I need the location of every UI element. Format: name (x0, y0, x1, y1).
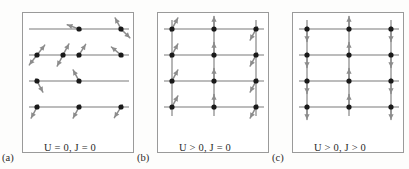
panel-b-sublabel: (b) (137, 152, 149, 163)
lattice-site (304, 78, 309, 93)
site-dot (346, 26, 351, 31)
site-dot (253, 52, 258, 57)
site-dot (304, 52, 309, 57)
panel-c: U > 0, J > 0 (c) (270, 0, 409, 169)
site-dot (34, 52, 39, 57)
site-dot (388, 104, 393, 109)
lattice-site (388, 78, 393, 93)
site-dot (76, 52, 81, 57)
site-dot (118, 104, 123, 109)
lattice-site (304, 26, 309, 41)
panel-c-box (292, 12, 404, 153)
site-dot (346, 78, 351, 83)
lattice-site (169, 70, 177, 84)
lattice-site (211, 95, 216, 110)
panel-b: U > 0, J = 0 (b) (135, 0, 275, 169)
lattice-site (169, 18, 177, 32)
panel-a-lattice (23, 13, 135, 154)
site-dot (388, 78, 393, 83)
site-dot (346, 52, 351, 57)
site-dot (169, 78, 174, 83)
panel-a-sublabel: (a) (2, 152, 14, 163)
lattice-site (388, 104, 393, 119)
lattice-site (111, 47, 123, 58)
lattice-site (346, 69, 351, 84)
lattice-site (211, 17, 216, 32)
site-dot (253, 26, 258, 31)
lattice-site (76, 44, 85, 57)
panel-b-caption: U > 0, J = 0 (135, 142, 275, 153)
lattice-site (169, 44, 177, 58)
lattice-site (67, 24, 81, 32)
panel-c-sublabel: (c) (272, 152, 284, 163)
site-dot (76, 78, 81, 83)
lattice-site (388, 52, 393, 67)
lattice-site (73, 104, 81, 118)
panel-a-box (22, 12, 134, 153)
lattice-site (304, 52, 309, 67)
site-dot (169, 52, 174, 57)
site-dot (211, 52, 216, 57)
lattice-site (73, 70, 81, 84)
lattice-site (346, 43, 351, 58)
lattice-site (250, 104, 258, 118)
site-dot (76, 26, 81, 31)
site-dot (34, 78, 39, 83)
lattice-site (114, 104, 123, 117)
site-dot (304, 104, 309, 109)
panel-c-lattice (293, 13, 405, 154)
site-dot (211, 104, 216, 109)
lattice-site (211, 69, 216, 84)
lattice-site (250, 52, 258, 66)
lattice-site (34, 78, 42, 92)
lattice-site (304, 104, 309, 119)
site-dot (211, 26, 216, 31)
site-dot (211, 78, 216, 83)
site-dot (60, 52, 65, 57)
lattice-site (346, 95, 351, 110)
site-dot (304, 26, 309, 31)
site-dot (169, 104, 174, 109)
lattice-site (115, 18, 130, 38)
lattice-site (346, 17, 351, 32)
hubbard-model-figure: U = 0, J = 0 (a) U > 0, J = 0 (b) U > 0,… (0, 0, 409, 169)
panel-a: U = 0, J = 0 (a) (0, 0, 140, 169)
site-dot (253, 104, 258, 109)
panel-c-caption: U > 0, J > 0 (270, 142, 409, 153)
panel-a-caption: U = 0, J = 0 (0, 142, 140, 153)
site-dot (34, 104, 39, 109)
panel-b-box (157, 12, 269, 153)
site-dot (118, 26, 123, 31)
lattice-site (388, 26, 393, 41)
lattice-site (31, 104, 39, 118)
site-dot (118, 52, 123, 57)
panel-b-lattice (158, 13, 270, 154)
site-dot (76, 104, 81, 109)
lattice-site (250, 26, 258, 40)
site-dot (169, 26, 174, 31)
lattice-site (211, 43, 216, 58)
site-dot (388, 52, 393, 57)
site-dot (253, 78, 258, 83)
site-dot (388, 26, 393, 31)
lattice-site (250, 78, 258, 92)
site-dot (304, 78, 309, 83)
site-dot (346, 104, 351, 109)
lattice-site (169, 96, 177, 110)
